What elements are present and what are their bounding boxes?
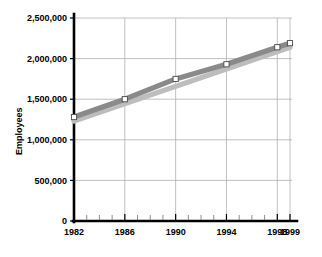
x-axis-major-ticks <box>74 214 290 220</box>
horizontal-gridlines <box>74 18 292 180</box>
x-axis-tick-labels: 198219861990199419981999 <box>64 227 300 237</box>
y-axis-title: Employees <box>14 107 24 155</box>
y-tick-label-2500000: 2,500,000 <box>27 13 67 23</box>
series-employees-dark <box>74 43 290 117</box>
y-axis-title-text: Employees <box>14 107 24 155</box>
series-dark-line <box>74 43 290 117</box>
x-tick-label-1999: 1999 <box>280 227 300 237</box>
chart-axes <box>73 14 297 222</box>
data-point-1999 <box>287 41 292 46</box>
y-tick-label-1000000: 1,000,000 <box>27 135 67 145</box>
data-point-1998 <box>275 45 280 50</box>
x-tick-label-1982: 1982 <box>64 227 84 237</box>
data-point-1994 <box>224 62 229 67</box>
data-point-1990 <box>173 76 178 81</box>
x-tick-label-1990: 1990 <box>166 227 186 237</box>
chart-canvas: 0500,0001,000,0001,500,0002,000,0002,500… <box>0 0 322 257</box>
data-point-1982 <box>71 114 76 119</box>
x-tick-label-1994: 1994 <box>216 227 236 237</box>
data-point-1986 <box>122 97 127 102</box>
x-tick-label-1986: 1986 <box>115 227 135 237</box>
y-axis-tick-labels: 0500,0001,000,0001,500,0002,000,0002,500… <box>27 13 67 226</box>
y-tick-label-2000000: 2,000,000 <box>27 54 67 64</box>
y-tick-label-0: 0 <box>62 216 67 226</box>
y-tick-label-1500000: 1,500,000 <box>27 94 67 104</box>
employees-line-chart: 0500,0001,000,0001,500,0002,000,0002,500… <box>0 0 322 257</box>
y-tick-label-500000: 500,000 <box>34 176 67 186</box>
vertical-gridlines <box>74 18 290 221</box>
